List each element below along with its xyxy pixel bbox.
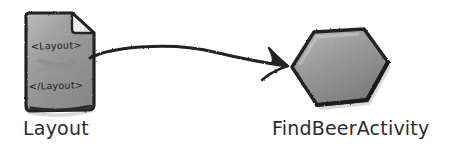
layout-node-caption: Layout (23, 117, 89, 139)
connector-arrow (90, 46, 288, 80)
sketch-diagram-canvas: <Layout> </Layout> Layout FindBeerActivi… (0, 0, 460, 153)
layout-open-tag-text: <Layout> (31, 39, 82, 51)
layout-close-tag-text: </Layout> (29, 79, 83, 91)
node-findbeeractivity-hexagon (292, 29, 391, 110)
node-layout-document (26, 13, 94, 117)
findbeeractivity-node-caption: FindBeerActivity (272, 117, 429, 139)
